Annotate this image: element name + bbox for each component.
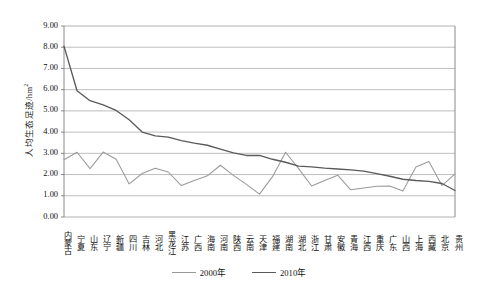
y-axis-tick-label: 5.00 xyxy=(24,105,58,114)
x-axis-category-label: 河北 xyxy=(149,222,162,264)
x-axis-category-label: 湖北 xyxy=(292,222,305,264)
y-axis-tick-label: 2.00 xyxy=(24,169,58,178)
series-line-2010年 xyxy=(64,46,455,190)
x-axis-category-label: 上海 xyxy=(409,222,422,264)
y-axis-tick-label: 8.00 xyxy=(24,42,58,51)
x-axis-category-label: 新疆 xyxy=(110,222,123,264)
legend-label-2000: 2000年 xyxy=(200,266,226,278)
x-axis-category-label: 海南 xyxy=(201,222,214,264)
x-axis-category-label: 贵州 xyxy=(448,222,461,264)
x-axis-category-label: 辽宁 xyxy=(97,222,110,264)
x-axis-category-label: 浙江 xyxy=(305,222,318,264)
y-axis-tick-label: 4.00 xyxy=(24,127,58,136)
y-axis-title-text: 人均生态足迹/hm xyxy=(24,87,34,157)
legend-item-2010: 2010年 xyxy=(252,266,306,278)
y-axis-tick-label: 9.00 xyxy=(24,21,58,30)
x-axis-category-label: 江西 xyxy=(357,222,370,264)
y-axis-tick-label: 1.00 xyxy=(24,190,58,199)
x-axis-category-label: 宁夏 xyxy=(71,222,84,264)
legend-label-2010: 2010年 xyxy=(280,266,306,278)
series-line-2000年 xyxy=(64,152,455,194)
x-axis-category-label: 福建 xyxy=(266,222,279,264)
x-axis-category-label: 甘肃 xyxy=(318,222,331,264)
x-axis-category-label: 青海 xyxy=(344,222,357,264)
x-axis-category-label: 湖南 xyxy=(279,222,292,264)
y-axis-title: 人均生态足迹/hm2 xyxy=(21,60,35,180)
x-axis-category-label: 山西 xyxy=(396,222,409,264)
x-axis-category-label: 安徽 xyxy=(331,222,344,264)
x-axis-category-label: 山东 xyxy=(84,222,97,264)
x-axis-category-label: 内蒙古 xyxy=(57,222,70,264)
y-axis-tick-label: 6.00 xyxy=(24,84,58,93)
x-axis-category-label: 北京 xyxy=(435,222,448,264)
x-axis-category-label: 陕西 xyxy=(227,222,240,264)
ecological-footprint-chart: 人均生态足迹/hm2 0.001.002.003.004.005.006.007… xyxy=(0,0,478,287)
chart-legend: 2000年 2010年 xyxy=(0,266,478,278)
x-axis-category-label: 云南 xyxy=(240,222,253,264)
legend-swatch-2010 xyxy=(252,272,276,273)
x-axis-category-label: 江苏 xyxy=(175,222,188,264)
x-axis-category-label: 河南 xyxy=(214,222,227,264)
x-axis-category-label: 广东 xyxy=(383,222,396,264)
y-axis-tick-label: 3.00 xyxy=(24,148,58,157)
legend-swatch-2000 xyxy=(172,272,196,273)
x-axis-category-label: 西藏 xyxy=(422,222,435,264)
x-axis-category-label: 四川 xyxy=(123,222,136,264)
x-axis-category-label: 黑龙江 xyxy=(162,222,175,264)
x-axis-category-label: 吉林 xyxy=(136,222,149,264)
x-axis-category-label: 天津 xyxy=(253,222,266,264)
y-axis-tick-label: 7.00 xyxy=(24,63,58,72)
legend-item-2000: 2000年 xyxy=(172,266,226,278)
y-axis-tick-label: 0.00 xyxy=(24,212,58,221)
x-axis-category-label: 重庆 xyxy=(370,222,383,264)
x-axis-category-label: 广西 xyxy=(188,222,201,264)
